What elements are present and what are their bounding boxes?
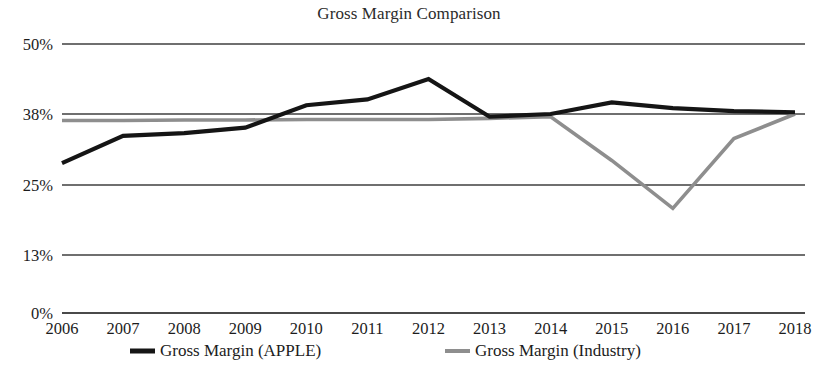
x-tick-label: 2008 <box>168 319 201 338</box>
x-tick-label: 2009 <box>229 319 262 338</box>
y-tick-label: 25% <box>23 176 54 195</box>
x-tick-label: 2006 <box>46 319 79 338</box>
chart-plot-area: 0%13%25%38%50% 2006200720082009201020112… <box>0 0 818 373</box>
x-tick-label: 2014 <box>534 319 567 338</box>
x-tick-label: 2007 <box>107 319 140 338</box>
x-tick-label: 2017 <box>717 319 750 338</box>
legend-label-industry[interactable]: Gross Margin (Industry) <box>475 341 641 360</box>
y-tick-label: 50% <box>23 35 54 54</box>
x-tick-label: 2012 <box>412 319 445 338</box>
series-line-industry <box>62 114 795 208</box>
x-axis-tick-labels: 2006200720082009201020112012201320142015… <box>46 319 812 338</box>
chart-legend: Gross Margin (APPLE)Gross Margin (Indust… <box>130 341 641 360</box>
x-tick-label: 2018 <box>779 319 812 338</box>
y-tick-label: 13% <box>23 246 54 265</box>
gross-margin-chart: Gross Margin Comparison 0%13%25%38%50% 2… <box>0 0 818 373</box>
legend-label-apple[interactable]: Gross Margin (APPLE) <box>160 341 321 360</box>
x-tick-label: 2015 <box>595 319 628 338</box>
x-tick-label: 2013 <box>473 319 506 338</box>
x-tick-label: 2016 <box>656 319 689 338</box>
data-series-group <box>62 79 795 208</box>
y-tick-label: 38% <box>23 105 54 124</box>
y-axis-tick-labels: 0%13%25%38%50% <box>23 35 54 323</box>
x-tick-label: 2011 <box>351 319 383 338</box>
x-tick-label: 2010 <box>290 319 323 338</box>
